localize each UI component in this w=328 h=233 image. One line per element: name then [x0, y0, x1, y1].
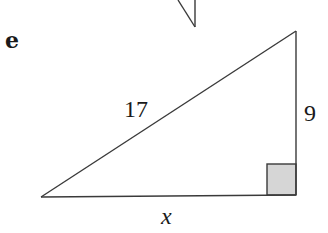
- horizontal-leg-label: x: [160, 203, 172, 229]
- partial-slanted-edge: [178, 0, 195, 27]
- right-triangle: [41, 31, 296, 197]
- triangle-diagram: e 17 9 x: [0, 0, 328, 233]
- partial-previous-triangle: [178, 0, 195, 27]
- right-angle-marker: [267, 164, 296, 195]
- part-label: e: [5, 27, 19, 53]
- hypotenuse-edge: [41, 31, 296, 197]
- vertical-leg-label: 9: [304, 100, 316, 126]
- hypotenuse-label: 17: [124, 96, 148, 122]
- horizontal-leg-edge: [41, 195, 296, 197]
